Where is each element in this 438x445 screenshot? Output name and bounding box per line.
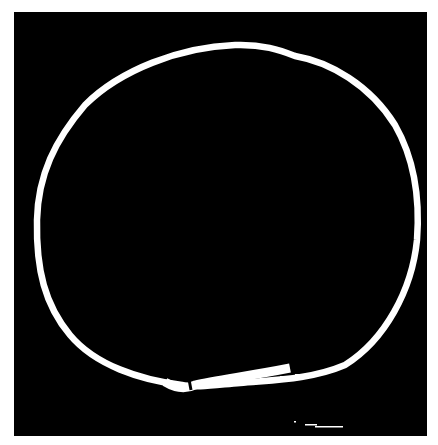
image-canvas	[0, 0, 438, 445]
black-background	[14, 12, 427, 436]
